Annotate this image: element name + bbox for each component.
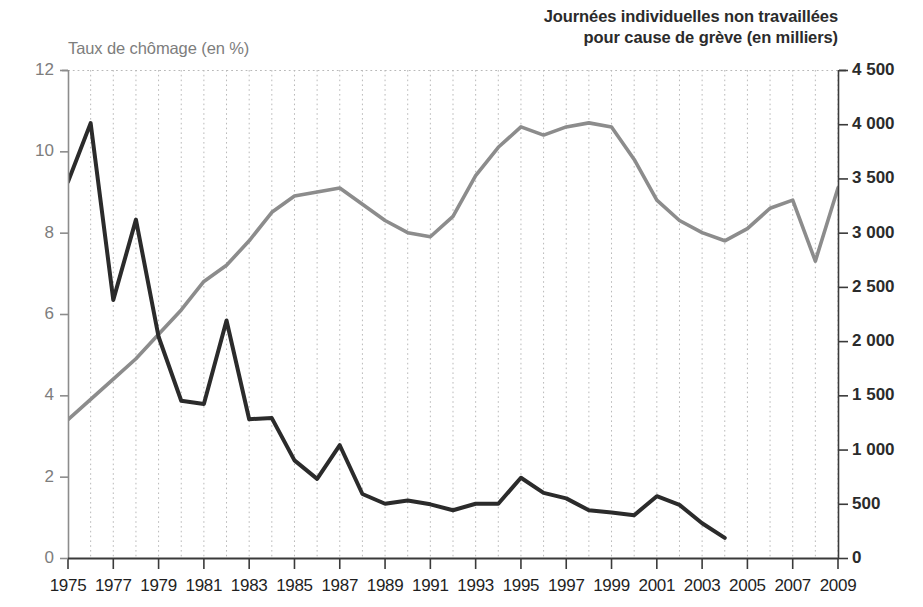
x-tick-label: 1997 [548,576,585,596]
right-tick-label: 4 500 [852,60,895,80]
right-tick-label: 3 500 [852,168,895,188]
left-tick-label: 10 [35,141,54,161]
x-tick-label: 1989 [367,576,404,596]
right-tick-label: 3 000 [852,223,895,243]
x-tick-label: 2009 [820,576,857,596]
x-tick-label: 1991 [412,576,449,596]
x-tick-label: 1979 [140,576,177,596]
x-tick-label: 1977 [95,576,132,596]
left-tick-label: 4 [45,385,54,405]
chart-svg [68,70,838,558]
x-tick-label: 1975 [50,576,87,596]
right-tick-label: 0 [852,548,861,568]
x-tick-label: 2003 [684,576,721,596]
x-tick-label: 1999 [593,576,630,596]
x-tick-label: 2005 [729,576,766,596]
x-tick-label: 1985 [276,576,313,596]
left-tick-label: 2 [45,467,54,487]
right-tick-label: 2 000 [852,331,895,351]
right-tick-label: 1 500 [852,385,895,405]
x-tick-label: 1993 [457,576,494,596]
x-tick-label: 1995 [503,576,540,596]
right-tick-label: 1 000 [852,440,895,460]
left-tick-label: 12 [35,60,54,80]
right-tick-label: 4 000 [852,114,895,134]
plot-area [68,70,838,558]
gridlines [68,70,838,558]
x-axis-ticks: 1975197719791981198319851987198919911993… [0,570,923,600]
left-tick-label: 8 [45,223,54,243]
chart-figure: Taux de chômage (en %) Journées individu… [0,0,923,607]
right-tick-label: 500 [852,494,880,514]
series-line [68,123,725,538]
left-tick-label: 6 [45,304,54,324]
left-axis-title: Taux de chômage (en %) [68,38,249,59]
x-tick-label: 2001 [639,576,676,596]
x-tick-label: 1983 [231,576,268,596]
x-tick-label: 1981 [186,576,223,596]
left-tick-label: 0 [45,548,54,568]
right-tick-label: 2 500 [852,277,895,297]
right-axis-title: Journées individuelles non travaillées p… [544,6,838,48]
x-tick-label: 1987 [321,576,358,596]
x-tick-label: 2007 [774,576,811,596]
